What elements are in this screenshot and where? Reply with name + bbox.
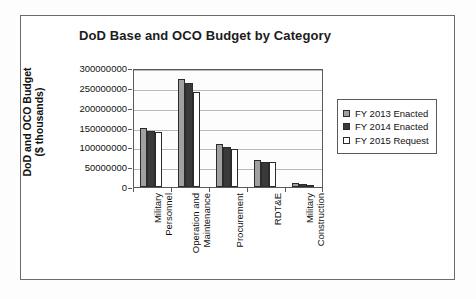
legend-label: FY 2013 Enacted [355,108,428,119]
y-axis-title-line2: ($ thousands) [34,56,46,188]
bar[interactable] [292,183,300,187]
y-axis-tick-mark [128,109,132,110]
x-axis-tick-label-line: Military [304,193,315,277]
legend-label: FY 2015 Request [355,135,429,146]
legend-item[interactable]: FY 2015 Request [343,135,429,146]
x-axis-tick-label: Procurement [234,193,245,277]
bar[interactable] [261,162,269,187]
bar-group [248,70,286,187]
x-axis-tick-mark [209,188,210,192]
legend-swatch-icon [343,123,350,130]
y-axis-tick-mark [128,89,132,90]
bar[interactable] [216,144,224,187]
y-axis-tick-mark [128,148,132,149]
legend-label: FY 2014 Enacted [355,121,428,132]
x-axis-tick-label: MilitaryConstruction [304,193,326,277]
bar[interactable] [140,128,148,187]
x-axis-tick-mark [171,188,172,192]
y-axis-tick-mark [128,188,132,189]
y-axis-tick-mark [128,69,132,70]
y-axis-tick-label: 50000000 [85,163,127,173]
y-axis-tick-labels: 3000000002500000002000000001500000001000… [56,62,130,195]
x-axis-tick-label: MilitaryPersonnel [152,193,174,277]
bar[interactable] [307,185,315,187]
legend-swatch-icon [343,110,350,117]
y-axis-tick-label: 250000000 [79,84,127,94]
x-axis-tick-label-line: Personnel [163,193,174,277]
y-axis-tick-label: 200000000 [79,104,127,114]
y-axis-tick-label: 0 [122,183,127,193]
x-axis-tick-label-line: Operation and [190,193,201,277]
bar-group [286,70,324,187]
y-axis-title-line1: DoD and OCO Budget [22,56,34,188]
legend-item[interactable]: FY 2013 Enacted [343,108,429,119]
x-axis-tick-mark [133,188,134,192]
y-axis-title: DoD and OCO Budget ($ thousands) [22,56,46,188]
x-axis-tick-label-line: Military [152,193,163,277]
x-axis-tick-label: RDT&E [272,193,283,277]
y-axis-tick-mark [128,129,132,130]
bar-group [172,70,210,187]
bar[interactable] [254,160,262,187]
scanned-page: DoD Base and OCO Budget by Category DoD … [0,0,476,299]
x-axis-tick-label-line: RDT&E [272,193,283,277]
y-axis-tick-label: 150000000 [79,124,127,134]
bar-group [210,70,248,187]
chart-legend: FY 2013 EnactedFY 2014 EnactedFY 2015 Re… [337,99,437,154]
bar[interactable] [178,79,186,187]
bar[interactable] [185,83,193,187]
bar[interactable] [223,147,231,187]
x-axis-tick-mark [247,188,248,192]
legend-swatch-icon [343,137,350,144]
x-axis-tick-mark [322,188,323,192]
x-axis-tick-label-line: Procurement [234,193,245,277]
y-axis-tick-label: 300000000 [79,64,127,74]
legend-item[interactable]: FY 2014 Enacted [343,121,429,132]
bar-group [134,70,172,187]
bar[interactable] [299,184,307,187]
x-axis-tick-label-line: Construction [315,193,326,277]
x-axis-tick-labels: MilitaryPersonnelOperation andMaintenanc… [133,193,323,279]
bars-layer [134,70,322,187]
bar[interactable] [155,132,163,187]
y-axis-tick-mark [128,168,132,169]
chart-title: DoD Base and OCO Budget by Category [40,28,370,43]
y-axis-tick-label: 100000000 [79,143,127,153]
x-axis-tick-label-line: Maintenance [201,193,212,277]
bar[interactable] [269,162,277,187]
plot-area [133,69,323,188]
x-axis-tick-mark [285,188,286,192]
bar[interactable] [193,92,201,187]
bar[interactable] [231,149,239,187]
bar[interactable] [147,131,155,187]
x-axis-tick-label: Operation andMaintenance [190,193,212,277]
